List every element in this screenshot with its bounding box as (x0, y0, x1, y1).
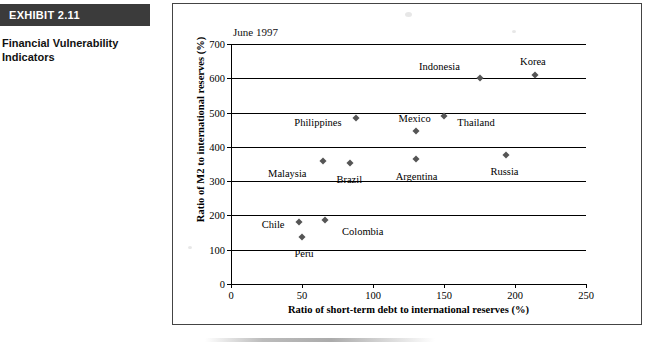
data-point (298, 233, 305, 240)
data-point-label: Chile (262, 218, 285, 229)
data-point (296, 218, 303, 225)
y-tick-label: 600 (209, 73, 225, 84)
data-point-label: Peru (294, 248, 313, 259)
x-tick-mark (373, 284, 374, 288)
data-point-label: Korea (520, 55, 546, 66)
data-point (320, 157, 327, 164)
x-tick-label: 200 (507, 290, 523, 301)
data-point (412, 128, 419, 135)
x-tick-label: 100 (365, 290, 381, 301)
x-tick-mark (586, 284, 587, 288)
data-point (347, 160, 354, 167)
y-gridline (231, 250, 586, 251)
data-point (503, 152, 510, 159)
data-point (352, 114, 359, 121)
y-tick-label: 200 (209, 210, 225, 221)
y-axis-title: Ratio of M2 to international reserves (%… (195, 10, 206, 250)
page-smudge (205, 338, 435, 342)
y-tick-label: 100 (209, 244, 225, 255)
y-gridline (231, 78, 586, 79)
data-point-label: Malaysia (268, 167, 307, 178)
y-axis-line (231, 44, 232, 284)
x-tick-mark (515, 284, 516, 288)
x-axis-title: Ratio of short-term debt to internationa… (231, 304, 586, 315)
data-point (476, 75, 483, 82)
data-point-label: Mexico (399, 113, 431, 124)
data-point-label: Indonesia (419, 61, 460, 72)
exhibit-caption: Financial Vulnerability Indicators (2, 36, 152, 64)
paper-speckle (405, 12, 412, 17)
data-point-label: Argentina (396, 170, 438, 181)
x-tick-label: 50 (297, 290, 308, 301)
data-point-label: Philippines (294, 116, 341, 127)
x-tick-label: 0 (228, 290, 233, 301)
paper-speckle (188, 246, 192, 249)
exhibit-badge: EXHIBIT 2.11 (0, 4, 150, 26)
data-point (412, 155, 419, 162)
y-tick-label: 500 (209, 107, 225, 118)
y-tick-label: 400 (209, 141, 225, 152)
y-gridline (231, 284, 586, 285)
exhibit-page: EXHIBIT 2.11 Financial Vulnerability Ind… (0, 0, 645, 346)
scatter-plot-area: 0100200300400500600700050100150200250Ind… (231, 44, 586, 284)
x-tick-mark (302, 284, 303, 288)
chart-annotation: June 1997 (233, 26, 278, 38)
chart-frame: June 1997 010020030040050060070005010015… (172, 3, 642, 325)
data-point (321, 216, 328, 223)
data-point-label: Colombia (342, 225, 383, 236)
x-tick-mark (444, 284, 445, 288)
y-gridline (231, 44, 586, 45)
x-tick-label: 150 (436, 290, 452, 301)
y-gridline (231, 147, 586, 148)
y-tick-label: 300 (209, 176, 225, 187)
x-tick-mark (231, 284, 232, 288)
y-tick-label: 0 (220, 279, 225, 290)
x-tick-label: 250 (578, 290, 594, 301)
y-gridline (231, 215, 586, 216)
data-point-label: Russia (490, 166, 518, 177)
y-tick-label: 700 (209, 39, 225, 50)
data-point-label: Brazil (336, 174, 362, 185)
paper-speckle (512, 30, 516, 33)
data-point-label: Thailand (457, 117, 494, 128)
